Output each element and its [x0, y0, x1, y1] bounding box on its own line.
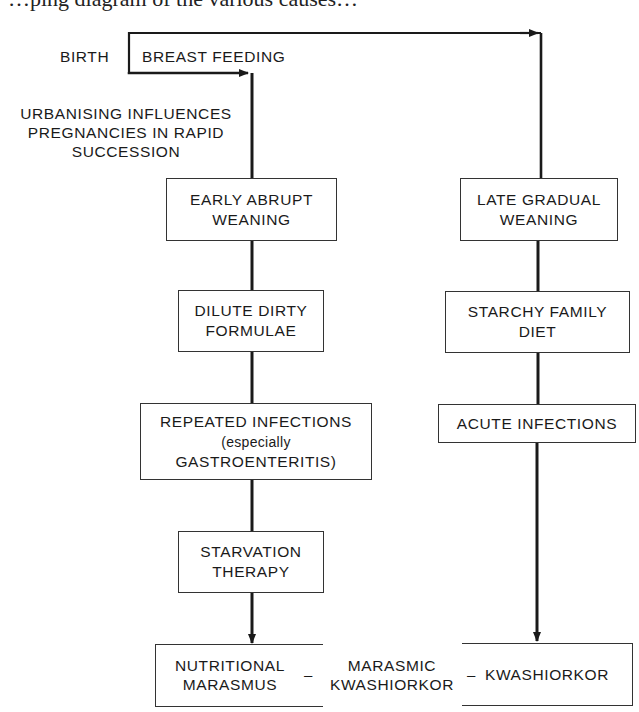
- box-text: LATE GRADUAL: [477, 190, 601, 210]
- box-acute-infections: ACUTE INFECTIONS: [438, 404, 636, 443]
- outcome-separator: –: [467, 666, 475, 683]
- outcome-marasmic-kwashiorkor: MARASMIC KWASHIORKOR: [318, 656, 466, 694]
- box-text: (especially: [221, 432, 290, 452]
- box-text: EARLY ABRUPT: [190, 190, 313, 210]
- box-text: ACUTE INFECTIONS: [457, 414, 617, 434]
- outcome-kwashiorkor: KWASHIORKOR: [485, 665, 609, 684]
- outcome-text: MARASMUS: [160, 675, 300, 694]
- influences-label: URBANISING INFLUENCES PREGNANCIES IN RAP…: [2, 104, 250, 161]
- influences-line-3: SUCCESSION: [2, 142, 250, 161]
- influences-line-1: URBANISING INFLUENCES: [2, 104, 250, 123]
- box-text: STARVATION: [200, 542, 301, 562]
- box-starchy-family-diet: STARCHY FAMILY DIET: [445, 291, 630, 353]
- outcome-text: MARASMIC: [318, 656, 466, 675]
- box-text: DILUTE DIRTY: [195, 301, 308, 321]
- influences-line-2: PREGNANCIES IN RAPID: [2, 123, 250, 142]
- box-early-abrupt-weaning: EARLY ABRUPT WEANING: [166, 178, 337, 241]
- outcome-text: NUTRITIONAL: [160, 656, 300, 675]
- box-text: REPEATED INFECTIONS: [160, 412, 352, 432]
- box-starvation-therapy: STARVATION THERAPY: [178, 531, 324, 593]
- box-text: GASTROENTERITIS): [175, 452, 336, 472]
- birth-label: BIRTH: [60, 47, 109, 66]
- outcome-text: KWASHIORKOR: [318, 675, 466, 694]
- box-repeated-infections: REPEATED INFECTIONS (especially GASTROEN…: [140, 403, 372, 480]
- box-text: DIET: [519, 322, 557, 342]
- box-dilute-dirty-formulae: DILUTE DIRTY FORMULAE: [178, 290, 324, 352]
- box-late-gradual-weaning: LATE GRADUAL WEANING: [460, 178, 618, 241]
- box-text: THERAPY: [212, 562, 289, 582]
- breast-feeding-label: BREAST FEEDING: [142, 47, 285, 66]
- box-text: STARCHY FAMILY: [468, 302, 607, 322]
- outcome-separator: –: [304, 666, 312, 683]
- outcome-nutritional-marasmus: NUTRITIONAL MARASMUS: [160, 656, 300, 694]
- box-text: WEANING: [212, 210, 290, 230]
- box-text: WEANING: [500, 210, 578, 230]
- box-text: FORMULAE: [206, 321, 297, 341]
